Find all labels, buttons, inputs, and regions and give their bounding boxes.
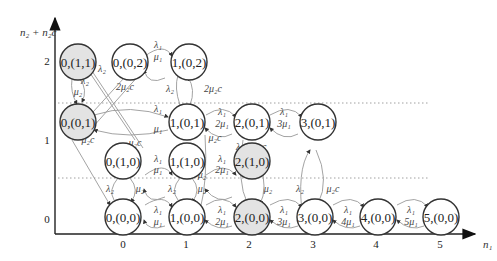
svg-text:1,(0,2): 1,(0,2) — [172, 55, 207, 70]
svg-text:λ₂: λ₂ — [167, 183, 176, 194]
y-tick: 2 — [44, 55, 50, 67]
svg-text:λ₁: λ₁ — [217, 106, 226, 117]
state-0-0-0: 0,(0,0) — [105, 199, 141, 235]
state-3-0-1: 3,(0,1) — [300, 104, 336, 140]
svg-text:λ₁: λ₁ — [343, 204, 352, 215]
svg-text:μ₂c: μ₂c — [208, 132, 222, 143]
svg-text:0,(1,0): 0,(1,0) — [106, 154, 141, 169]
svg-text:λ₂: λ₂ — [97, 63, 106, 74]
y-axis-label: n₂ + n₂c — [20, 26, 57, 38]
state-5-0-0: 5,(0,0) — [423, 199, 459, 235]
svg-text:5,(0,0): 5,(0,0) — [424, 210, 459, 225]
svg-text:μ₁: μ₁ — [153, 123, 163, 134]
x-tick: 1 — [183, 238, 189, 250]
svg-text:λ₁: λ₁ — [217, 153, 226, 164]
x-tick: 2 — [246, 238, 252, 250]
svg-text:2μ₁: 2μ₁ — [215, 164, 229, 175]
svg-text:μ₂: μ₂ — [263, 183, 273, 194]
state-3-0-0: 3,(0,0) — [297, 199, 333, 235]
state-1-0-0: 1,(0,0) — [169, 199, 205, 235]
x-tick: 0 — [120, 238, 126, 250]
state-1-0-1: 1,(0,1) — [169, 104, 205, 140]
svg-text:μ₂c: μ₂c — [326, 183, 340, 194]
svg-text:λ₁: λ₁ — [279, 106, 288, 117]
svg-text:μ₂: μ₂ — [135, 183, 145, 194]
state-2-0-1: 2,(0,1) — [234, 104, 270, 140]
svg-text:2μ₁: 2μ₁ — [215, 118, 229, 129]
svg-text:2μ₂c: 2μ₂c — [204, 83, 222, 94]
svg-text:λ₁: λ₁ — [153, 103, 162, 114]
svg-text:4,(0,0): 4,(0,0) — [361, 210, 396, 225]
svg-text:5μ₁: 5μ₁ — [404, 216, 418, 227]
svg-text:3μ₁: 3μ₁ — [276, 216, 291, 227]
svg-text:0,(0,0): 0,(0,0) — [106, 210, 141, 225]
svg-text:4μ₁: 4μ₁ — [341, 216, 355, 227]
svg-text:λ₂: λ₂ — [105, 183, 114, 194]
svg-text:μ₂: μ₂ — [197, 183, 207, 194]
svg-text:0,(0,1): 0,(0,1) — [61, 115, 96, 130]
svg-text:2,(1,0): 2,(1,0) — [235, 154, 270, 169]
svg-text:2,(0,1): 2,(0,1) — [235, 115, 270, 130]
svg-text:1,(0,0): 1,(0,0) — [170, 210, 205, 225]
y-tick: 1 — [44, 134, 50, 146]
svg-text:λ₁: λ₁ — [217, 204, 226, 215]
x-tick: 3 — [310, 238, 316, 250]
x-tick: 5 — [437, 238, 443, 250]
svg-text:1,(0,1): 1,(0,1) — [170, 115, 205, 130]
svg-text:μ₂: μ₂ — [73, 86, 83, 97]
svg-text:2μ₁: 2μ₁ — [215, 216, 229, 227]
state-0-1-0: 0,(1,0) — [105, 143, 141, 179]
svg-text:3μ₁: 3μ₁ — [276, 118, 291, 129]
svg-text:3,(0,1): 3,(0,1) — [301, 115, 336, 130]
svg-text:λ₁: λ₁ — [153, 153, 162, 164]
state-2-0-0: 2,(0,0) — [234, 199, 270, 235]
svg-text:λ₂: λ₂ — [295, 183, 304, 194]
svg-text:2,(0,0): 2,(0,0) — [235, 210, 270, 225]
x-axis-label: n₁ — [483, 238, 493, 250]
state-0-0-1: 0,(0,1) — [60, 104, 96, 140]
x-tick: 4 — [373, 238, 379, 250]
svg-text:μ₁: μ₁ — [153, 164, 163, 175]
state-0-0-2: 0,(0,2) — [112, 44, 148, 80]
state-1-0-2: 1,(0,2) — [171, 44, 207, 80]
state-2-1-0: 2,(1,0) — [234, 143, 270, 179]
state-4-0-0: 4,(0,0) — [360, 199, 396, 235]
svg-text:λ₁: λ₁ — [153, 204, 162, 215]
state-1-1-0: 1,(1,0) — [169, 143, 205, 179]
svg-text:3,(0,0): 3,(0,0) — [298, 210, 333, 225]
svg-text:0,(0,2): 0,(0,2) — [113, 55, 148, 70]
svg-text:1,(1,0): 1,(1,0) — [170, 154, 205, 169]
svg-text:λ₁: λ₁ — [153, 39, 162, 50]
svg-text:λ₁: λ₁ — [279, 204, 288, 215]
svg-text:μ₁: μ₁ — [153, 51, 163, 62]
y-tick: 0 — [44, 213, 50, 225]
svg-text:2μ₂c: 2μ₂c — [116, 81, 134, 92]
svg-text:λ₁: λ₁ — [406, 204, 415, 215]
svg-text:μ₁: μ₁ — [153, 216, 163, 227]
state-transition-diagram: n₂ + n₂c n₁ 2 1 0 0 1 2 3 4 5 — [0, 0, 497, 261]
svg-text:0,(1,1): 0,(1,1) — [61, 55, 96, 70]
state-0-1-1: 0,(1,1) — [60, 44, 96, 80]
svg-text:λ₂: λ₂ — [165, 83, 174, 94]
